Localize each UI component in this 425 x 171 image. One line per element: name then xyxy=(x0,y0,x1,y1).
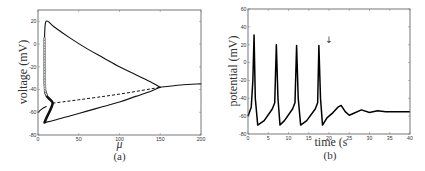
y-tick-label: -80 xyxy=(239,131,247,137)
x-tick-label: 5 xyxy=(267,135,270,141)
y-tick-label: 0 xyxy=(244,59,247,65)
x-tick-label: 150 xyxy=(156,136,165,142)
panel-b-chart: 05101520253035406040200-20-40-60-80 pote… xyxy=(226,6,413,162)
series-line xyxy=(160,84,201,87)
y-tick-label: 0 xyxy=(34,41,37,47)
panel-b-label: (b) xyxy=(324,149,337,162)
x-tick-label: 10 xyxy=(286,135,292,141)
x-tick-label: 35 xyxy=(387,135,393,141)
series-line xyxy=(45,87,161,122)
x-tick-label: 50 xyxy=(76,136,82,142)
y-tick-label: -20 xyxy=(29,64,37,70)
y-tick-label: 40 xyxy=(241,24,247,30)
y-tick-label: -60 xyxy=(29,109,37,115)
x-tick-label: 30 xyxy=(367,135,373,141)
panel-a-axes-frame xyxy=(38,10,201,135)
panel-a-ylabel: voltage (mV) xyxy=(16,40,30,104)
panel-b-ylabel: potential (mV) xyxy=(226,36,240,107)
y-tick-label: -40 xyxy=(29,86,37,92)
y-tick-label: 20 xyxy=(31,18,37,24)
panel-a-ticks: 050100150200200-20-40-60-80 xyxy=(29,10,205,142)
x-tick-label: 40 xyxy=(407,135,413,141)
x-tick-label: 0 xyxy=(247,135,250,141)
panel-a-label: (a) xyxy=(113,150,126,163)
series-line xyxy=(53,87,161,103)
y-tick-label: -80 xyxy=(29,132,37,138)
y-tick-label: -40 xyxy=(239,95,247,101)
panel-b-curves xyxy=(248,35,410,125)
figure: 050100150200200-20-40-60-80 voltage (mV)… xyxy=(0,0,425,171)
down-arrow-icon: ↓ xyxy=(325,35,333,45)
y-tick-label: 20 xyxy=(241,42,247,48)
panel-b-xlabel: time (s xyxy=(315,135,348,149)
y-tick-label: 60 xyxy=(241,6,247,12)
x-tick-label: 15 xyxy=(306,135,312,141)
potential-trace xyxy=(248,35,410,125)
x-tick-label: 0 xyxy=(37,136,40,142)
unstable-cycle-marker xyxy=(45,94,47,96)
panel-a-xlabel: μ xyxy=(115,137,122,151)
y-tick-label: -60 xyxy=(239,113,247,119)
panel-a-chart: 050100150200200-20-40-60-80 voltage (mV)… xyxy=(16,10,205,163)
x-tick-label: 200 xyxy=(197,136,206,142)
series-line xyxy=(45,21,161,87)
y-tick-label: -20 xyxy=(239,77,247,83)
panel-a-curves xyxy=(38,21,201,123)
series-line xyxy=(38,107,46,113)
